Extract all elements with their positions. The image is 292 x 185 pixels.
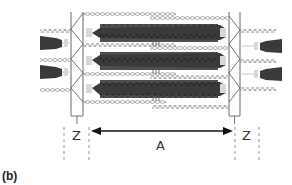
z-label-right: Z bbox=[242, 129, 251, 142]
sarcomere-svg bbox=[0, 0, 292, 185]
sarcomere-diagram: Z Z A (b) bbox=[0, 0, 292, 185]
a-band-arrow bbox=[91, 127, 233, 135]
a-band-label: A bbox=[156, 139, 165, 152]
thick-filament-partial-left bbox=[40, 36, 68, 79]
thick-filament-row-1 bbox=[86, 24, 226, 42]
thick-filament-row-3 bbox=[86, 80, 226, 98]
z-label-left: Z bbox=[72, 129, 81, 142]
panel-label: (b) bbox=[2, 170, 17, 182]
z-line-right bbox=[229, 12, 240, 124]
z-line-left bbox=[71, 12, 83, 124]
thick-filament-row-2 bbox=[86, 52, 226, 70]
